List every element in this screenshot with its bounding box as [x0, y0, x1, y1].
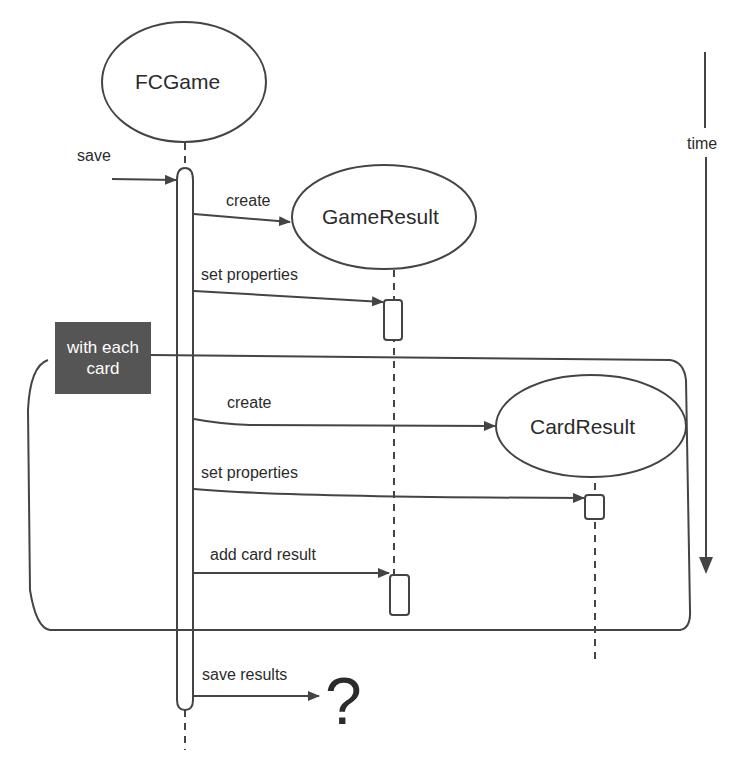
loop-label-line1: with each: [67, 337, 139, 358]
create-cardresult-arrow: [194, 419, 495, 426]
fcgame-activation-bar: [177, 168, 193, 710]
save-arrow: [112, 179, 176, 180]
save-label: save: [77, 148, 111, 164]
create-cardresult-label: create: [227, 395, 271, 411]
loop-label-line2: card: [67, 358, 139, 379]
set-properties-gameresult-label: set properties: [201, 267, 298, 283]
time-axis-label: time: [687, 136, 717, 152]
create-gameresult-label: create: [226, 193, 270, 209]
gameresult-activation-1: [384, 300, 402, 340]
add-card-result-label: add card result: [210, 547, 316, 563]
loop-label-tag: with each card: [55, 322, 151, 394]
gameresult-activation-2: [390, 575, 409, 615]
create-gameresult-arrow: [194, 214, 290, 222]
time-axis-arrowhead: [699, 557, 713, 574]
save-results-label: save results: [202, 667, 287, 683]
set-properties-cardresult-label: set properties: [201, 465, 298, 481]
set-properties-gameresult-arrow: [194, 291, 383, 302]
gameresult-label: GameResult: [322, 206, 439, 227]
fcgame-label: FCGame: [135, 71, 220, 92]
unknown-target-question-mark: ?: [325, 668, 362, 734]
cardresult-activation: [585, 495, 604, 519]
set-properties-cardresult-arrow: [194, 489, 584, 498]
cardresult-label: CardResult: [530, 416, 635, 437]
